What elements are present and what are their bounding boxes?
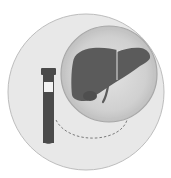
- tube-cap: [41, 68, 56, 75]
- illustration-canvas: [0, 0, 171, 178]
- tube-label: [44, 82, 53, 92]
- liver-test-illustration: [0, 0, 171, 178]
- blood-test-tube-icon: [41, 68, 56, 144]
